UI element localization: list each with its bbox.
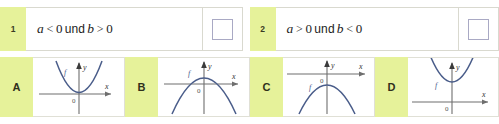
- worksheet: 1 a<0undb>0 2 a>0undb<0: [0, 0, 499, 124]
- graph-svg-b: f x y 0: [158, 58, 250, 116]
- statement-number-1a: 0: [56, 21, 63, 36]
- graph-plot-d: f x y 0: [408, 57, 499, 117]
- graph-plot-a: f x y 0: [33, 57, 125, 117]
- statement-expression-2: a>0undb<0: [287, 21, 363, 37]
- statement-conjunction-1: und: [63, 22, 88, 36]
- origin-label-b: 0: [197, 87, 201, 95]
- statement-text-box-1: a<0undb>0: [26, 7, 203, 51]
- x-axis-arrow-c: [359, 72, 365, 77]
- graph-row: A f x y 0 B: [0, 57, 499, 117]
- graph-plot-c: f x y 0: [283, 57, 375, 117]
- statement-relation-1b: >: [94, 22, 106, 36]
- statement-number-1b: 0: [106, 21, 113, 36]
- statement-index-badge-2: 2: [250, 7, 276, 51]
- graph-letter-badge-b: B: [125, 57, 158, 117]
- x-label-a: x: [104, 82, 109, 91]
- graph-card-b[interactable]: B f x y 0: [125, 57, 250, 117]
- curve-label-c: f: [309, 83, 313, 92]
- x-axis-arrow-d: [482, 100, 488, 105]
- curve-label-b: f: [188, 69, 192, 78]
- graph-card-d[interactable]: D f x y 0: [375, 57, 499, 117]
- y-axis-arrow-a: [76, 62, 82, 69]
- graph-letter-badge-c: C: [250, 57, 283, 117]
- curve-label-d: f: [435, 81, 439, 90]
- origin-label-a: 0: [72, 97, 76, 105]
- statement-conjunction-2: und: [312, 22, 337, 36]
- statement-number-2b: 0: [356, 21, 363, 36]
- y-label-d: y: [455, 63, 460, 72]
- statement-var-a-1: a: [37, 21, 44, 36]
- graph-card-a[interactable]: A f x y 0: [0, 57, 125, 117]
- statement-card-gap: [243, 7, 250, 51]
- y-label-b: y: [207, 62, 212, 71]
- y-axis-arrow-d: [449, 62, 455, 69]
- y-axis-arrow-c: [324, 60, 330, 67]
- curve-label-a: f: [64, 68, 68, 77]
- x-axis-arrow-b: [232, 82, 238, 87]
- graph-card-c[interactable]: C f x y 0: [250, 57, 375, 117]
- checkbox-cell-2[interactable]: [459, 7, 499, 51]
- statement-row: 1 a<0undb>0 2 a>0undb<0: [0, 7, 499, 51]
- statement-var-a-2: a: [287, 21, 294, 36]
- answer-checkbox-2[interactable]: [468, 19, 489, 40]
- statement-index-badge-1: 1: [0, 7, 26, 51]
- statement-relation-1a: <: [44, 22, 56, 36]
- y-axis-arrow-b: [201, 61, 207, 68]
- statement-var-b-2: b: [337, 21, 344, 36]
- x-label-d: x: [481, 90, 486, 99]
- y-label-a: y: [82, 63, 87, 72]
- statement-card-2: 2 a>0undb<0: [250, 7, 499, 51]
- x-label-c: x: [358, 62, 363, 71]
- statement-expression-1: a<0undb>0: [37, 21, 113, 37]
- graph-letter-badge-a: A: [0, 57, 33, 117]
- statement-relation-2b: <: [344, 22, 356, 36]
- graph-letter-badge-d: D: [375, 57, 408, 117]
- origin-label-c: 0: [320, 77, 324, 85]
- graph-plot-b: f x y 0: [158, 57, 250, 117]
- statement-text-box-2: a>0undb<0: [276, 7, 459, 51]
- statement-relation-2a: >: [294, 22, 306, 36]
- graph-svg-a: f x y 0: [33, 58, 125, 116]
- x-label-b: x: [231, 72, 236, 81]
- graph-svg-c: f x y 0: [283, 58, 375, 116]
- origin-label-d: 0: [445, 105, 449, 113]
- statement-card-1: 1 a<0undb>0: [0, 7, 243, 51]
- x-axis-arrow-a: [105, 92, 111, 97]
- checkbox-cell-1[interactable]: [203, 7, 243, 51]
- y-label-c: y: [330, 61, 335, 70]
- answer-checkbox-1[interactable]: [212, 19, 233, 40]
- graph-svg-d: f x y 0: [408, 58, 499, 116]
